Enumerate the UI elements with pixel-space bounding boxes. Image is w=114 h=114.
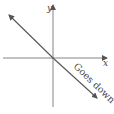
y-axis-label: y — [46, 3, 53, 13]
coordinate-diagram: y x Goes down — [0, 0, 114, 114]
x-axis-label: x — [103, 58, 108, 68]
decreasing-line — [9, 15, 53, 58]
